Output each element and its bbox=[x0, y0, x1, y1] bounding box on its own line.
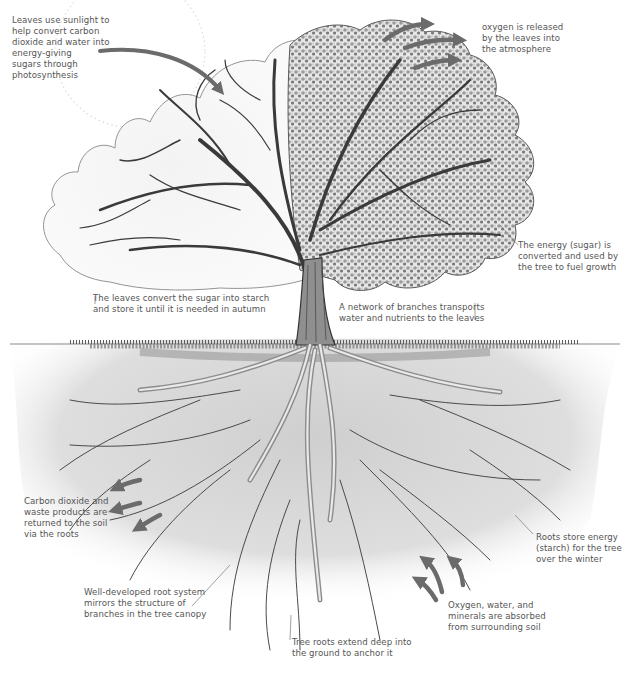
annotation-line: the ground to anchor it bbox=[292, 648, 412, 659]
annotation-line: over the winter bbox=[536, 554, 622, 565]
annotation-line: The leaves convert the sugar into starch bbox=[93, 293, 269, 304]
tree-diagram: Leaves use sunlight to help convert carb… bbox=[0, 0, 627, 673]
annotation-line: minerals are absorbed bbox=[448, 611, 546, 622]
annotation-line: Well-developed root system bbox=[84, 587, 206, 598]
annotation-line: water and nutrients to the leaves bbox=[339, 313, 484, 324]
annotation-line: Carbon dioxide and bbox=[24, 496, 109, 507]
annotation-line: the tree to fuel growth bbox=[518, 262, 618, 273]
annotation-line: The energy (sugar) is bbox=[518, 240, 618, 251]
annotation-line: branches in the tree canopy bbox=[84, 609, 206, 620]
annotation-starch-storage-leaves: The leaves convert the sugar into starch… bbox=[93, 293, 269, 315]
annotation-oxygen-release: oxygen is released by the leaves into th… bbox=[482, 22, 563, 55]
annotation-line: from surrounding soil bbox=[448, 622, 546, 633]
annotation-line: dioxide and water into bbox=[12, 37, 110, 48]
annotation-line: the atmosphere bbox=[482, 44, 563, 55]
annotation-line: help convert carbon bbox=[12, 26, 110, 37]
annotation-roots-store-energy: Roots store energy (starch) for the tree… bbox=[536, 532, 622, 565]
annotation-line: returned to the soil bbox=[24, 518, 109, 529]
annotation-anchor-roots: Tree roots extend deep into the ground t… bbox=[292, 637, 412, 659]
annotation-line: Oxygen, water, and bbox=[448, 600, 546, 611]
annotation-line: mirrors the structure of bbox=[84, 598, 206, 609]
annotation-line: A network of branches transports bbox=[339, 302, 484, 313]
annotation-line: converted and used by bbox=[518, 251, 618, 262]
annotation-co2-return: Carbon dioxide and waste products are re… bbox=[24, 496, 109, 540]
annotation-line: Roots store energy bbox=[536, 532, 622, 543]
canopy-right-leafy bbox=[288, 20, 534, 290]
annotation-absorption: Oxygen, water, and minerals are absorbed… bbox=[448, 600, 546, 633]
annotation-line: energy-giving bbox=[12, 48, 110, 59]
annotation-line: oxygen is released bbox=[482, 22, 563, 33]
annotation-line: photosynthesis bbox=[12, 70, 110, 81]
annotation-line: sugars through bbox=[12, 59, 110, 70]
annotation-branch-network: A network of branches transports water a… bbox=[339, 302, 484, 324]
annotation-line: (starch) for the tree bbox=[536, 543, 622, 554]
annotation-line: and store it until it is needed in autum… bbox=[93, 304, 269, 315]
annotation-line: via the roots bbox=[24, 529, 109, 540]
annotation-energy-growth: The energy (sugar) is converted and used… bbox=[518, 240, 618, 273]
annotation-line: Leaves use sunlight to bbox=[12, 15, 110, 26]
annotation-photosynthesis: Leaves use sunlight to help convert carb… bbox=[12, 15, 110, 81]
annotation-line: waste products are bbox=[24, 507, 109, 518]
annotation-line: Tree roots extend deep into bbox=[292, 637, 412, 648]
annotation-root-system-mirror: Well-developed root system mirrors the s… bbox=[84, 587, 206, 620]
tree-illustration bbox=[0, 0, 627, 673]
annotation-line: by the leaves into bbox=[482, 33, 563, 44]
